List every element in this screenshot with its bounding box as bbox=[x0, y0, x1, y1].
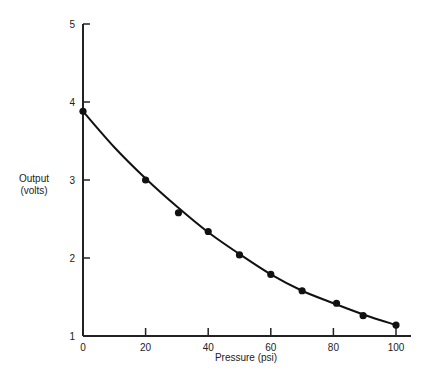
y-tick-label: 1 bbox=[69, 331, 75, 342]
axes bbox=[83, 24, 411, 336]
ticks: 12345020406080100 bbox=[69, 19, 404, 353]
data-points bbox=[79, 108, 399, 329]
data-point bbox=[360, 312, 367, 319]
fitted-curve bbox=[83, 111, 396, 325]
y-tick-label: 4 bbox=[69, 97, 75, 108]
data-point bbox=[79, 108, 86, 115]
data-point bbox=[205, 228, 212, 235]
y-tick-label: 3 bbox=[69, 175, 75, 186]
data-point bbox=[175, 209, 182, 216]
data-point bbox=[236, 251, 243, 258]
x-tick-label: 40 bbox=[203, 342, 215, 353]
data-point bbox=[142, 176, 149, 183]
x-tick-label: 80 bbox=[328, 342, 340, 353]
data-point bbox=[333, 300, 340, 307]
pressure-output-chart: 12345020406080100 Pressure (psi) Output … bbox=[0, 0, 429, 381]
x-tick-label: 0 bbox=[80, 342, 86, 353]
y-tick-label: 5 bbox=[69, 19, 75, 30]
y-tick-label: 2 bbox=[69, 253, 75, 264]
x-tick-label: 20 bbox=[140, 342, 152, 353]
y-axis-title-line1: Output bbox=[19, 173, 49, 184]
x-axis-title: Pressure (psi) bbox=[215, 352, 277, 363]
y-axis-title-line2: (volts) bbox=[20, 185, 47, 196]
data-point bbox=[392, 321, 399, 328]
data-point bbox=[299, 287, 306, 294]
data-point bbox=[267, 271, 274, 278]
x-tick-label: 100 bbox=[388, 342, 405, 353]
